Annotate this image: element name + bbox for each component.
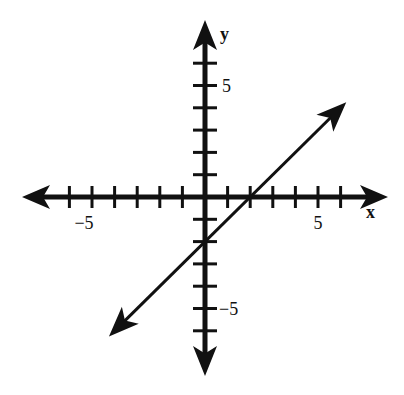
- line-segment: [123, 116, 332, 322]
- x-tick-label: 5: [314, 213, 323, 233]
- coordinate-plane: x y −555−5: [0, 0, 404, 395]
- y-tick-label: −5: [219, 299, 238, 319]
- y-axis-label: y: [220, 24, 229, 44]
- x-axis-label: x: [366, 202, 375, 222]
- x-tick-label: −5: [74, 213, 93, 233]
- axes: [22, 20, 388, 376]
- y-tick-label: 5: [222, 76, 231, 96]
